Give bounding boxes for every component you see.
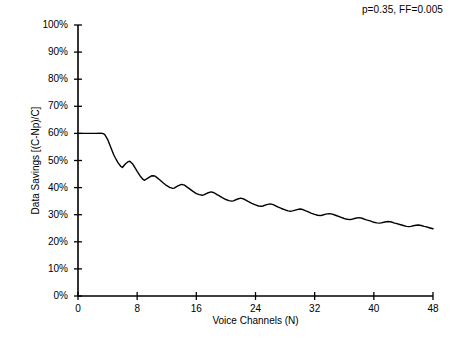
x-tick-label: 8	[122, 303, 152, 315]
y-tick-label: 100%	[28, 19, 68, 31]
x-tick-label: 16	[181, 303, 211, 315]
x-tick-label: 40	[359, 303, 389, 315]
y-tick-label: 30%	[28, 209, 68, 221]
y-tick-label: 40%	[28, 182, 68, 194]
y-tick-label: 20%	[28, 236, 68, 248]
y-tick-label: 60%	[28, 127, 68, 139]
x-axis-label: Voice Channels (N)	[78, 315, 433, 326]
y-tick-label: 10%	[28, 263, 68, 275]
x-tick-label: 32	[300, 303, 330, 315]
x-tick-label: 0	[63, 303, 93, 315]
chart-figure: p=0.35, FF=0.005 Data Savings [(C-Np)/C]…	[0, 0, 455, 338]
plot-area	[0, 0, 455, 338]
y-tick-label: 90%	[28, 46, 68, 58]
data-series-line	[78, 133, 433, 229]
y-tick-label: 50%	[28, 155, 68, 167]
chart-annotation: p=0.35, FF=0.005	[362, 4, 443, 15]
x-tick-label: 48	[418, 303, 448, 315]
axis-lines	[78, 25, 433, 296]
y-tick-label: 70%	[28, 100, 68, 112]
y-tick-label: 0%	[28, 290, 68, 302]
x-tick-label: 24	[241, 303, 271, 315]
y-tick-label: 80%	[28, 73, 68, 85]
